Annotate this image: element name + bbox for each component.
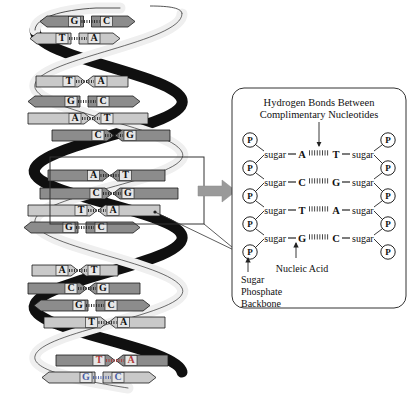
base-letter: G	[71, 15, 79, 26]
sugar-label-left: sugar	[264, 233, 286, 244]
base-letter: C	[97, 221, 104, 232]
base-letter: T	[104, 112, 111, 123]
inset-title-line2: Complimentary Nucleotides	[260, 109, 379, 120]
inset-base-left: C	[298, 177, 306, 188]
phosphate-group-left: P	[243, 245, 257, 259]
base-letter: A	[58, 264, 66, 275]
phosphate-group-right: P	[381, 133, 395, 147]
base-letter: G	[124, 187, 132, 198]
base-block-right	[115, 130, 170, 141]
phosphate-label: P	[385, 247, 391, 257]
sugar-label-right: sugar	[352, 233, 374, 244]
inset-base-right: A	[332, 205, 340, 216]
base-letter: A	[109, 204, 117, 215]
phosphate-label: P	[385, 219, 391, 229]
inset-title-line1: Hydrogen Bonds Between	[264, 97, 376, 108]
base-letter: A	[90, 32, 98, 43]
phosphate-label: P	[385, 135, 391, 145]
sugar-label-left: sugar	[264, 149, 286, 160]
phosphate-label: P	[247, 247, 253, 257]
sugar-label-right: sugar	[352, 205, 374, 216]
base-block-left	[32, 265, 78, 276]
base-letter: A	[97, 75, 105, 86]
inset-base-left: G	[298, 233, 306, 244]
base-letter: G	[82, 371, 90, 382]
phosphate-label: P	[247, 163, 253, 173]
phosphate-label: P	[247, 191, 253, 201]
base-letter: T	[66, 75, 73, 86]
base-block-right	[111, 170, 166, 181]
callout-anchor-dot	[153, 210, 156, 213]
phosphate-label: P	[247, 219, 253, 229]
base-block-left	[28, 113, 91, 124]
phosphate-group-left: P	[243, 161, 257, 175]
base-block-right	[92, 113, 148, 124]
base-letter: C	[107, 299, 114, 310]
phosphate-label: P	[385, 163, 391, 173]
base-block-right	[92, 16, 136, 27]
base-letter: T	[91, 264, 98, 275]
sugar-label-right: sugar	[352, 177, 374, 188]
sugar-label-right: sugar	[352, 149, 374, 160]
base-letter: T	[122, 169, 129, 180]
backbone-label-line3: Backbone	[241, 298, 282, 309]
inset-base-left: T	[298, 205, 305, 216]
phosphate-label: P	[247, 135, 253, 145]
base-block-left	[36, 76, 85, 87]
inset-base-right: T	[332, 149, 339, 160]
nucleotide-detail-panel: Hydrogen Bonds Between Complimentary Nuc…	[232, 88, 406, 309]
base-block-right	[109, 317, 166, 328]
base-letter: G	[75, 299, 83, 310]
phosphate-group-left: P	[243, 217, 257, 231]
inset-base-right: G	[332, 177, 340, 188]
phosphate-group-right: P	[381, 189, 395, 203]
inset-base-left: A	[298, 149, 306, 160]
sugar-label-left: sugar	[264, 177, 286, 188]
phosphate-group-left: P	[243, 133, 257, 147]
nucleic-acid-label: Nucleic Acid	[276, 263, 328, 274]
base-letter: A	[90, 169, 98, 180]
base-block-right	[96, 300, 150, 311]
phosphate-group-left: P	[243, 189, 257, 203]
sugar-label-left: sugar	[264, 205, 286, 216]
base-letter: C	[94, 129, 101, 140]
base-block-left	[52, 130, 114, 141]
phosphate-group-right: P	[381, 245, 395, 259]
base-letter: T	[78, 204, 85, 215]
base-letter: T	[96, 354, 103, 365]
base-letter: A	[120, 316, 128, 327]
phosphate-label: P	[385, 191, 391, 201]
backbone-label-line1: Sugar	[241, 274, 265, 285]
dna-figure-canvas: GCTATAGCATCGATCGTAGCATCGGCTATAGC Hydroge…	[0, 0, 414, 395]
backbone-label-line2: Phosphate	[241, 286, 283, 297]
base-letter: G	[126, 129, 134, 140]
base-letter: T	[59, 32, 66, 43]
base-letter: G	[65, 221, 73, 232]
base-block-left	[48, 170, 110, 181]
base-letter: C	[114, 371, 121, 382]
base-letter: C	[103, 15, 110, 26]
dna-diagram-svg: GCTATAGCATCGATCGTAGCATCGGCTATAGC Hydroge…	[0, 0, 414, 395]
base-letter: C	[99, 95, 106, 106]
base-letter: C	[92, 187, 99, 198]
base-letter: G	[67, 95, 75, 106]
base-letter: T	[88, 316, 95, 327]
phosphate-group-right: P	[381, 161, 395, 175]
base-letter: G	[99, 282, 107, 293]
base-letter: A	[71, 112, 79, 123]
base-letter: A	[127, 354, 135, 365]
base-letter: C	[67, 282, 74, 293]
base-block-left	[44, 317, 108, 328]
phosphate-group-right: P	[381, 217, 395, 231]
inset-base-right: C	[332, 233, 340, 244]
